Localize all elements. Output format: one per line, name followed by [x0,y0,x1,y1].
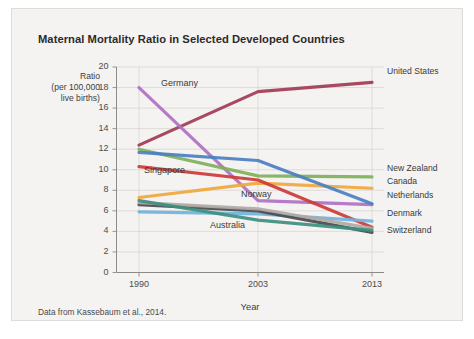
series-label-united-states: United States [387,66,439,76]
x-axis-label: Year [241,301,260,312]
series-label-new-zealand: New Zealand [387,163,438,173]
x-tick-label: 1990 [119,279,159,289]
y-tick-label: 20 [93,61,109,71]
y-axis-label-line-3: live births) [38,93,100,104]
y-axis-label-line-2: (per 100,000 [38,82,100,93]
y-tick-label: 12 [93,143,109,153]
y-tick-label: 4 [93,225,109,235]
y-tick-label: 6 [93,205,109,215]
y-tick-label: 18 [93,82,109,92]
series-inline-label-norway: Norway [241,189,272,199]
y-tick-label: 2 [93,246,109,256]
series-inline-label-germany: Germany [161,78,198,88]
series-label-denmark: Denmark [387,208,422,218]
x-tick-label: 2003 [238,279,278,289]
series-label-switzerland: Switzerland [387,225,431,235]
y-tick-label: 10 [93,164,109,174]
series-inline-label-singapore: Singapore [144,165,185,175]
y-tick-label: 0 [93,267,109,277]
y-axis-label: Ratio (per 100,000 live births) [38,71,100,105]
y-tick-label: 16 [93,102,109,112]
y-tick-label: 14 [93,123,109,133]
chart-title: Maternal Mortality Ratio in Selected Dev… [38,33,345,45]
series-label-netherlands: Netherlands [387,190,433,200]
series-inline-label-australia: Australia [210,220,245,230]
source-note: Data from Kassebaum et al., 2014. [38,307,166,317]
y-tick-label: 8 [93,184,109,194]
x-tick-label: 2013 [352,279,392,289]
y-axis-label-line-1: Ratio [38,71,100,82]
series-label-canada: Canada [387,176,417,186]
